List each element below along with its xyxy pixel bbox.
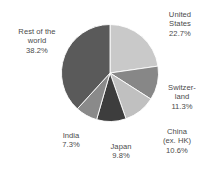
slice-label-rest-of-world: Rest of the world 38.2% — [6, 27, 68, 55]
pie-slice — [110, 25, 158, 74]
slice-label-china: China (ex. HK) 10.6% — [152, 127, 202, 155]
slice-label-switzerland: Switzer- land 11.3% — [160, 83, 204, 111]
pie-chart-figure: United States 22.7% Switzer- land 11.3% … — [0, 0, 208, 172]
slice-label-japan: Japan 9.8% — [101, 142, 141, 161]
slice-label-united-states: United States 22.7% — [158, 10, 202, 38]
slice-label-india: India 7.3% — [51, 131, 91, 150]
pie-slice-group — [61, 25, 158, 122]
